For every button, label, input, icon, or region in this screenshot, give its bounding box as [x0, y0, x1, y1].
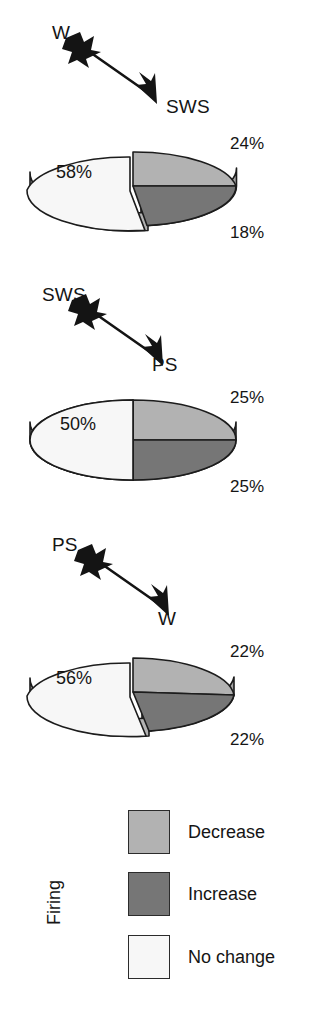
- pie-chart-figure: W SWS: [0, 0, 309, 1011]
- legend-swatch-increase: [128, 872, 170, 916]
- legend-label-increase: Increase: [188, 884, 257, 905]
- pie-chart-sws-ps: 50% 25% 25%: [8, 388, 263, 500]
- pie-chart-w-sws: 58% 24% 18%: [8, 134, 263, 246]
- pie-graphic: [8, 388, 263, 500]
- state-label-to: SWS: [166, 96, 210, 118]
- slice-label-increase: 25%: [230, 477, 264, 497]
- slice-label-decrease: 22%: [230, 642, 264, 662]
- transition-panel-sws-ps: SWS PS 50%: [0, 260, 309, 512]
- pie-chart-ps-w: 56% 22% 22%: [8, 640, 263, 752]
- slice-label-increase: 18%: [230, 223, 264, 243]
- transition-header: SWS PS: [0, 260, 309, 382]
- slice-label-decrease: 25%: [230, 388, 264, 408]
- transition-panel-ps-w: PS W 56%: [0, 512, 309, 770]
- legend-label-decrease: Decrease: [188, 822, 265, 843]
- transition-header: W SWS: [0, 0, 309, 122]
- slice-label-no-change: 50%: [60, 414, 96, 435]
- legend: Firing Decrease Increase No change: [0, 800, 309, 1011]
- legend-item-no-change: No change: [128, 933, 275, 981]
- legend-label-no-change: No change: [188, 947, 275, 968]
- slice-label-decrease: 24%: [230, 134, 264, 154]
- legend-swatch-no-change: [128, 935, 170, 979]
- legend-swatch-decrease: [128, 810, 170, 854]
- state-label-to: PS: [152, 354, 178, 376]
- slice-label-increase: 22%: [230, 730, 264, 750]
- slice-label-no-change: 58%: [56, 162, 92, 183]
- pie-graphic: [8, 640, 263, 752]
- legend-item-decrease: Decrease: [128, 808, 265, 856]
- transition-arrow-icon: [60, 28, 180, 110]
- transition-panel-w-sws: W SWS: [0, 0, 309, 260]
- slice-label-no-change: 56%: [56, 668, 92, 689]
- transition-header: PS W: [0, 512, 309, 634]
- pie-graphic: [8, 134, 263, 246]
- legend-item-increase: Increase: [128, 870, 257, 918]
- legend-axis-title: Firing: [44, 843, 65, 963]
- state-label-to: W: [158, 608, 176, 630]
